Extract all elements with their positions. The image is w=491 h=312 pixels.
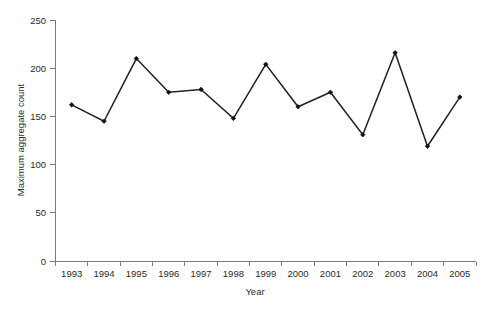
y-tick-label: 200	[30, 63, 46, 74]
x-tick-label: 2000	[288, 268, 309, 279]
line-chart: 050100150200250 199319941995199619971998…	[0, 0, 491, 312]
x-tick-label: 1998	[223, 268, 244, 279]
y-axis-title: Maximum aggregate count	[15, 83, 26, 196]
x-tick-label: 1997	[190, 268, 211, 279]
x-axis-title: Year	[245, 286, 264, 297]
chart-background	[0, 0, 491, 312]
x-tick-label: 2002	[352, 268, 373, 279]
x-tick-label: 1995	[126, 268, 147, 279]
y-tick-label: 50	[35, 207, 46, 218]
y-tick-label: 100	[30, 159, 46, 170]
x-tick-label: 2004	[417, 268, 438, 279]
x-tick-label: 1999	[255, 268, 276, 279]
y-tick-label: 250	[30, 15, 46, 26]
x-tick-label: 2003	[385, 268, 406, 279]
x-tick-label: 1996	[158, 268, 179, 279]
x-tick-label: 1994	[93, 268, 114, 279]
x-tick-label: 2001	[320, 268, 341, 279]
x-tick-label: 1993	[61, 268, 82, 279]
x-tick-label: 2005	[449, 268, 470, 279]
chart-figure: 050100150200250 199319941995199619971998…	[0, 0, 491, 312]
y-tick-label: 150	[30, 111, 46, 122]
y-tick-label: 0	[41, 256, 46, 267]
